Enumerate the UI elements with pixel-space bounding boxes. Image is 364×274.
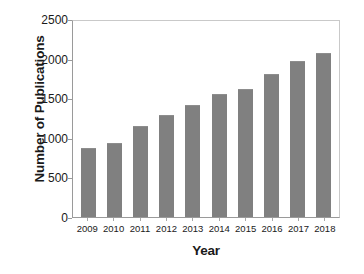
y-tick-label: 1500 xyxy=(30,93,68,105)
bar-2009 xyxy=(81,148,96,217)
bar-slot xyxy=(101,21,127,217)
x-tick-mark xyxy=(87,218,88,221)
bar-slot xyxy=(232,21,258,217)
x-tick-label: 2012 xyxy=(153,223,179,237)
x-tick-slot xyxy=(74,218,100,222)
x-tick-slot xyxy=(127,218,153,222)
x-tick-slot xyxy=(232,218,258,222)
bar-series xyxy=(73,21,339,217)
bar-slot xyxy=(154,21,180,217)
x-tick-slot xyxy=(259,218,285,222)
bar-2015 xyxy=(238,89,253,217)
x-axis-tick-labels: 2009201020112012201320142015201620172018 xyxy=(72,223,340,237)
x-tick-mark xyxy=(192,218,193,221)
x-tick-slot xyxy=(285,218,311,222)
bar-2017 xyxy=(290,61,305,217)
x-tick-mark xyxy=(245,218,246,221)
x-tick-mark xyxy=(219,218,220,221)
y-tick-label: 0 xyxy=(30,212,68,224)
x-tick-mark xyxy=(272,218,273,221)
bar-chart-figure: Number of Publications 05001000150020002… xyxy=(0,0,364,274)
bar-2014 xyxy=(212,94,227,217)
x-tick-slot xyxy=(312,218,338,222)
x-tick-slot xyxy=(206,218,232,222)
bar-slot xyxy=(180,21,206,217)
x-tick-label: 2013 xyxy=(180,223,206,237)
x-tick-mark xyxy=(298,218,299,221)
x-tick-mark xyxy=(166,218,167,221)
x-axis-title: Year xyxy=(72,243,340,258)
y-tick-label: 2000 xyxy=(30,54,68,66)
x-tick-label: 2017 xyxy=(285,223,311,237)
x-tick-label: 2010 xyxy=(100,223,126,237)
y-axis-tick-labels: 05001000150020002500 xyxy=(30,0,68,274)
bar-2012 xyxy=(159,115,174,217)
x-tick-label: 2016 xyxy=(259,223,285,237)
x-tick-label: 2015 xyxy=(232,223,258,237)
bar-2011 xyxy=(133,126,148,217)
y-tick-label: 2500 xyxy=(30,14,68,26)
x-tick-mark xyxy=(140,218,141,221)
x-tick-mark xyxy=(113,218,114,221)
x-tick-mark xyxy=(324,218,325,221)
bar-slot xyxy=(311,21,337,217)
bar-slot xyxy=(75,21,101,217)
x-tick-label: 2009 xyxy=(74,223,100,237)
x-tick-slot xyxy=(180,218,206,222)
bar-2010 xyxy=(107,143,122,217)
x-tick-slot xyxy=(153,218,179,222)
bar-2016 xyxy=(264,74,279,217)
bar-2018 xyxy=(316,53,331,217)
x-axis-tick-marks xyxy=(72,218,340,222)
bar-slot xyxy=(127,21,153,217)
bar-slot xyxy=(285,21,311,217)
y-tick-label: 1000 xyxy=(30,133,68,145)
bar-slot xyxy=(258,21,284,217)
x-tick-label: 2014 xyxy=(206,223,232,237)
x-tick-label: 2011 xyxy=(127,223,153,237)
bar-slot xyxy=(206,21,232,217)
x-tick-label: 2018 xyxy=(312,223,338,237)
x-tick-slot xyxy=(100,218,126,222)
y-tick-label: 500 xyxy=(30,172,68,184)
bar-2013 xyxy=(185,105,200,217)
plot-area xyxy=(72,20,340,218)
